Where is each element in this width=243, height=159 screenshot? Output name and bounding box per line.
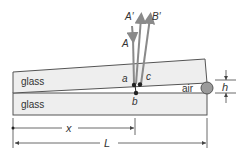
label-point-c: c <box>146 71 151 82</box>
label-point-b: b <box>132 96 138 107</box>
ray-a-incident <box>132 26 133 38</box>
label-ray-a-prime: A′ <box>124 11 135 22</box>
label-glass-top: glass <box>21 76 44 87</box>
point-c-dot <box>138 82 142 86</box>
label-point-a: a <box>122 73 128 84</box>
label-ray-b-prime: B′ <box>152 11 162 22</box>
label-l: L <box>104 137 110 149</box>
label-h: h <box>222 81 228 93</box>
label-air: air <box>182 83 194 94</box>
air-wedge-diagram: glass glass air A A′ B′ a c b h x L <box>0 0 243 159</box>
label-glass-bottom: glass <box>21 99 44 110</box>
ray-a-down-to-a <box>133 38 134 84</box>
air-spacer-circle <box>201 82 213 94</box>
label-ray-a: A <box>121 38 129 49</box>
label-x: x <box>65 122 72 134</box>
